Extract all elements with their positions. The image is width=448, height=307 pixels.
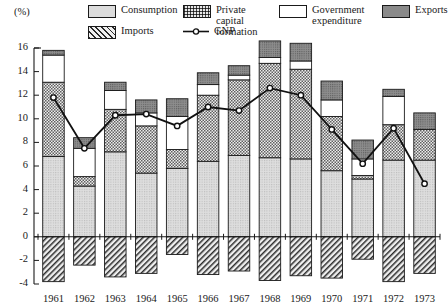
y-tick-label: 14 [8, 65, 28, 76]
segment-imports [105, 237, 127, 277]
segment-imports [321, 237, 343, 278]
segment-consumption [383, 160, 405, 237]
segment-private-capital [259, 63, 281, 157]
y-tick-label: 12 [8, 88, 28, 99]
segment-imports [352, 237, 374, 259]
x-tick-label: 1965 [160, 293, 194, 304]
gnp-point [174, 123, 179, 128]
segment-exports [197, 73, 219, 85]
gnp-point [329, 127, 334, 132]
segment-government [105, 90, 127, 109]
gnp-point [391, 126, 396, 131]
imports-swatch [88, 26, 116, 39]
segment-government [43, 55, 65, 82]
consumption-swatch [88, 5, 116, 18]
gnp-point [360, 161, 365, 166]
private-capital-swatch [183, 5, 211, 18]
segment-private-capital [321, 116, 343, 170]
legend-label-gnp: GNP [214, 25, 235, 36]
x-tick-label: 1966 [191, 293, 225, 304]
segment-government [290, 61, 312, 69]
legend-item-consumption: Consumption [88, 4, 178, 18]
segment-exports [105, 82, 127, 90]
gnp-point [236, 108, 241, 113]
x-tick-label: 1964 [129, 293, 163, 304]
segment-government [259, 57, 281, 63]
chart-legend: Consumption Private capital formation Go… [0, 0, 446, 44]
gnp-point [298, 93, 303, 98]
y-tick-label: 2 [8, 206, 28, 217]
segment-consumption [135, 173, 157, 237]
legend-item-imports: Imports [88, 25, 154, 39]
segment-imports [43, 237, 65, 282]
y-tick-label: 6 [8, 159, 28, 170]
segment-private-capital [43, 82, 65, 156]
plot-area: 1614121086420-2-4 1961196219631964196519… [0, 40, 446, 307]
segment-consumption [352, 179, 374, 237]
x-tick-label: 1968 [253, 293, 287, 304]
legend-label-consumption: Consumption [121, 4, 178, 15]
segment-imports [135, 237, 157, 274]
segment-imports [259, 237, 281, 281]
y-tick-label: -4 [8, 277, 28, 288]
y-axis-unit-label: (%) [14, 6, 30, 17]
legend-label-imports: Imports [121, 25, 154, 36]
x-tick-label: 1963 [98, 293, 132, 304]
y-tick-label: 8 [8, 135, 28, 146]
x-tick-label: 1962 [67, 293, 101, 304]
gnp-point [422, 181, 427, 186]
segment-consumption [228, 155, 250, 236]
segment-consumption [321, 171, 343, 237]
gnp-line-marker [183, 26, 209, 37]
segment-consumption [74, 186, 96, 237]
x-tick-label: 1971 [346, 293, 380, 304]
segment-exports [321, 81, 343, 100]
legend-item-gnp: GNP [183, 25, 235, 37]
legend-label-exports: Exports [415, 4, 448, 15]
gnp-point [144, 111, 149, 116]
segment-private-capital [228, 80, 250, 156]
segment-private-capital [74, 177, 96, 186]
segment-private-capital [352, 175, 374, 179]
segment-consumption [105, 152, 127, 237]
segment-government [228, 75, 250, 80]
gnp-point [205, 104, 210, 109]
segment-imports [383, 237, 405, 282]
y-tick-label: 10 [8, 112, 28, 123]
gnp-point [51, 95, 56, 100]
segment-exports [259, 41, 281, 58]
segment-imports [290, 237, 312, 276]
segment-private-capital [414, 129, 436, 160]
legend-item-government: Government expenditure [279, 4, 374, 26]
segment-government [321, 100, 343, 117]
y-tick-label: 16 [8, 41, 28, 52]
chart-canvas [0, 40, 446, 307]
y-tick-label: 0 [8, 230, 28, 241]
x-tick-label: 1961 [36, 293, 70, 304]
segment-exports [383, 89, 405, 96]
segment-imports [74, 237, 96, 265]
segment-exports [166, 99, 188, 117]
segment-government [197, 85, 219, 96]
segment-private-capital [135, 126, 157, 173]
gnp-point [113, 113, 118, 118]
segment-private-capital [166, 149, 188, 168]
legend-item-exports: Exports [382, 4, 448, 18]
x-tick-label: 1969 [284, 293, 318, 304]
y-tick-label: -2 [8, 253, 28, 264]
segment-consumption [166, 168, 188, 236]
x-tick-label: 1972 [377, 293, 411, 304]
segment-exports [228, 66, 250, 75]
segment-exports [414, 113, 436, 130]
segment-consumption [290, 159, 312, 237]
segment-imports [197, 237, 219, 275]
x-tick-label: 1973 [408, 293, 442, 304]
legend-label-government: Government expenditure [312, 4, 365, 26]
government-swatch [279, 5, 307, 18]
bars-group [43, 41, 436, 282]
gnp-point [267, 85, 272, 90]
x-tick-label: 1970 [315, 293, 349, 304]
segment-private-capital [290, 69, 312, 159]
segment-imports [414, 237, 436, 274]
